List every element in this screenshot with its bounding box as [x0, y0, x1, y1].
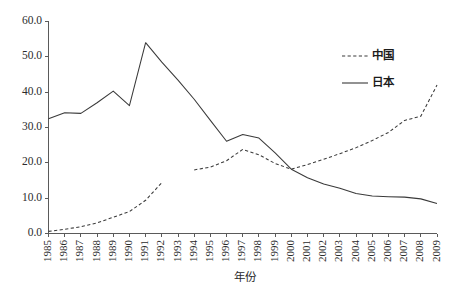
x-tick-label: 1997 [235, 240, 247, 263]
x-tick-label: 2002 [316, 240, 328, 262]
series-line-japan [49, 43, 438, 204]
x-axis-group: 1985198619871988198919901991199219931994… [41, 234, 442, 263]
y-axis-tick-labels: 0.010.020.030.040.050.060.0 [22, 14, 42, 238]
series-line-china [194, 85, 437, 170]
x-tick-label: 1996 [219, 240, 231, 263]
x-tick-label: 1999 [268, 240, 280, 263]
x-tick-label: 1986 [57, 240, 69, 263]
y-tick-label: 40.0 [22, 85, 42, 97]
y-axis-group: 0.010.020.030.040.050.060.0 [22, 14, 49, 238]
y-tick-label: 30.0 [22, 120, 42, 132]
plot-series-group [49, 43, 438, 232]
legend-label-china: 中国 [372, 48, 394, 61]
series-line-china [49, 183, 162, 232]
x-tick-label: 2009 [430, 240, 442, 263]
y-tick-label: 50.0 [22, 49, 42, 61]
y-axis-ticks [45, 22, 49, 234]
legend-label-japan: 日本 [372, 75, 395, 88]
x-tick-label: 1995 [203, 240, 215, 263]
x-tick-label: 2003 [332, 240, 344, 263]
y-tick-label: 60.0 [22, 14, 42, 26]
y-tick-label: 20.0 [22, 155, 42, 167]
y-tick-label: 10.0 [22, 191, 42, 203]
x-axis-ticks [49, 234, 438, 238]
x-axis-tick-labels: 1985198619871988198919901991199219931994… [41, 240, 442, 263]
x-tick-label: 1989 [106, 240, 118, 263]
x-tick-label: 1992 [154, 240, 166, 262]
x-tick-label: 2004 [349, 240, 361, 263]
chart-canvas: 0.010.020.030.040.050.060.0 198519861987… [0, 0, 450, 290]
x-tick-label: 2007 [397, 240, 409, 263]
chart-legend: 中国日本 [342, 48, 395, 88]
x-tick-label: 1987 [73, 240, 85, 263]
x-tick-label: 2006 [381, 240, 393, 263]
x-tick-label: 1990 [122, 240, 134, 263]
x-tick-label: 2000 [284, 240, 296, 263]
y-tick-label: 0.0 [28, 226, 43, 238]
x-tick-label: 1998 [251, 240, 263, 263]
x-tick-label: 2001 [300, 240, 312, 262]
x-tick-label: 1988 [90, 240, 102, 263]
x-tick-label: 1994 [187, 240, 199, 263]
x-tick-label: 1991 [138, 240, 150, 262]
x-tick-label: 2005 [365, 240, 377, 263]
line-chart-figure: 0.010.020.030.040.050.060.0 198519861987… [0, 0, 450, 290]
x-tick-label: 1993 [171, 240, 183, 263]
x-tick-label: 2008 [413, 240, 425, 263]
x-axis-title: 年份 [234, 270, 257, 283]
x-tick-label: 1985 [41, 240, 53, 263]
